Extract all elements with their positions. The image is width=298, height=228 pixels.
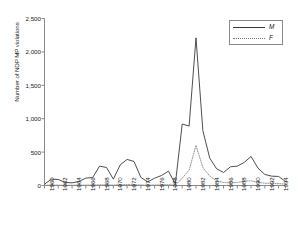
legend: M F — [229, 20, 283, 45]
x-tick-label: 1986 — [227, 165, 234, 191]
x-tick-label: 1988 — [240, 165, 247, 191]
legend-label-f: F — [269, 33, 273, 43]
x-tick-label: 1972 — [130, 165, 137, 191]
x-tick-label: 1968 — [103, 165, 110, 191]
x-tick-label: 1982 — [199, 165, 206, 191]
x-tick-label: 1962 — [61, 165, 68, 191]
x-tick-label: 1978 — [171, 165, 178, 191]
x-tick-label: 1976 — [158, 165, 165, 191]
legend-entry-f: F — [233, 33, 281, 43]
x-tick-label: 1980 — [185, 165, 192, 191]
x-tick-label: 1994 — [282, 165, 289, 191]
chart-figure: Number of NDP MP violations 05001,0001,5… — [0, 0, 298, 228]
legend-label-m: M — [269, 22, 274, 32]
x-tick-label: 1984 — [213, 165, 220, 191]
x-tick-label: 1966 — [89, 165, 96, 191]
x-tick-label: 1960 — [48, 165, 55, 191]
x-tick-label: 1964 — [75, 165, 82, 191]
legend-line-solid-icon — [233, 27, 265, 28]
legend-line-dotted-icon — [233, 38, 265, 39]
x-tick-label: 1992 — [268, 165, 275, 191]
legend-entry-m: M — [233, 22, 281, 32]
x-tick-label: 1970 — [116, 165, 123, 191]
x-tick-label: 1974 — [144, 165, 151, 191]
x-tick-label: 1990 — [254, 165, 261, 191]
